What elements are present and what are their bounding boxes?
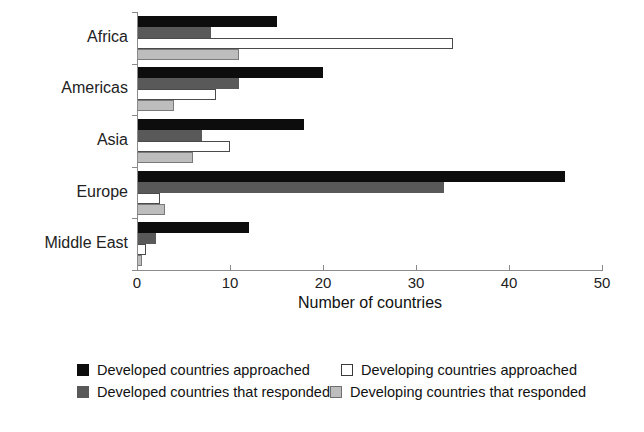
y-axis-category-label: Africa bbox=[0, 28, 128, 46]
bar-chart: AfricaAmericasAsiaEuropeMiddle East 0102… bbox=[0, 0, 644, 432]
bar bbox=[137, 78, 239, 89]
x-axis-title: Number of countries bbox=[137, 294, 603, 312]
chart-legend: Developed countries approached Developin… bbox=[77, 362, 577, 406]
bar bbox=[137, 38, 453, 49]
legend-swatch-icon bbox=[77, 364, 89, 376]
legend-swatch-icon bbox=[77, 386, 89, 398]
x-axis-tick-label: 0 bbox=[133, 274, 141, 291]
bar bbox=[137, 171, 565, 182]
bar bbox=[137, 130, 202, 141]
legend-row: Developed countries approached Developin… bbox=[77, 362, 577, 378]
bar bbox=[137, 16, 277, 27]
bar bbox=[137, 119, 304, 130]
x-axis-tick bbox=[416, 265, 417, 270]
bar bbox=[137, 100, 174, 111]
bar bbox=[137, 182, 444, 193]
y-axis-line bbox=[137, 12, 138, 270]
legend-swatch-icon bbox=[341, 364, 353, 376]
x-axis-line bbox=[137, 270, 603, 271]
x-axis-tick-label: 40 bbox=[501, 274, 518, 291]
legend-item-label: Developing countries that responded bbox=[350, 384, 586, 400]
y-axis-category-label: Americas bbox=[0, 79, 128, 97]
legend-item-label: Developed countries that responded bbox=[97, 384, 330, 400]
bar bbox=[137, 89, 216, 100]
bar bbox=[137, 244, 146, 255]
y-axis-category-label: Europe bbox=[0, 183, 128, 201]
bar bbox=[137, 233, 156, 244]
bar bbox=[137, 49, 239, 60]
y-axis-category-label: Middle East bbox=[0, 234, 128, 252]
legend-item-developing-responded: Developing countries that responded bbox=[330, 384, 586, 400]
x-axis-tick-label: 30 bbox=[408, 274, 425, 291]
legend-item-label: Developed countries approached bbox=[97, 362, 310, 378]
x-axis-tick bbox=[602, 265, 603, 270]
x-axis-tick-label: 20 bbox=[315, 274, 332, 291]
x-axis-tick-label: 50 bbox=[594, 274, 611, 291]
legend-item-label: Developing countries approached bbox=[361, 362, 577, 378]
plot-area: AfricaAmericasAsiaEuropeMiddle East bbox=[137, 12, 603, 270]
x-axis-tick bbox=[230, 265, 231, 270]
legend-item-developed-responded: Developed countries that responded bbox=[77, 384, 330, 400]
bar bbox=[137, 204, 165, 215]
bar bbox=[137, 152, 193, 163]
legend-row: Developed countries that responded Devel… bbox=[77, 384, 577, 400]
x-axis-tick bbox=[323, 265, 324, 270]
legend-item-developed-approached: Developed countries approached bbox=[77, 362, 341, 378]
legend-item-developing-approached: Developing countries approached bbox=[341, 362, 577, 378]
x-axis-tick bbox=[509, 265, 510, 270]
bar bbox=[137, 193, 160, 204]
y-axis-category-label: Asia bbox=[0, 131, 128, 149]
bar bbox=[137, 141, 230, 152]
legend-swatch-icon bbox=[330, 386, 342, 398]
bar bbox=[137, 222, 249, 233]
bar bbox=[137, 67, 323, 78]
x-axis-tick bbox=[137, 265, 138, 270]
x-axis-tick-label: 10 bbox=[222, 274, 239, 291]
bar bbox=[137, 27, 211, 38]
